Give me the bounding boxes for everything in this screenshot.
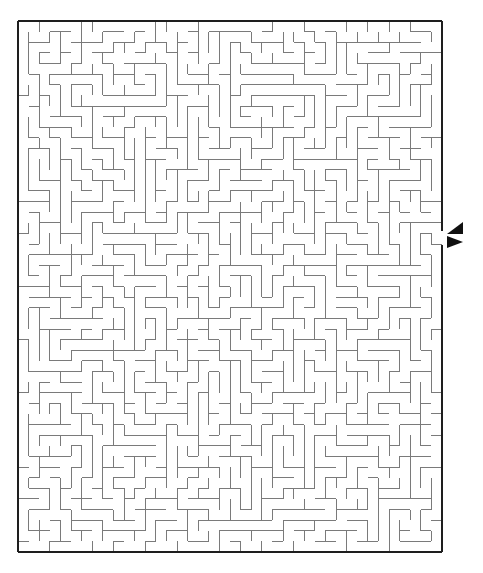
arrow-left-icon	[447, 222, 463, 234]
maze-board	[0, 0, 483, 573]
maze-walls	[18, 21, 442, 552]
arrow-right-icon	[447, 236, 463, 248]
